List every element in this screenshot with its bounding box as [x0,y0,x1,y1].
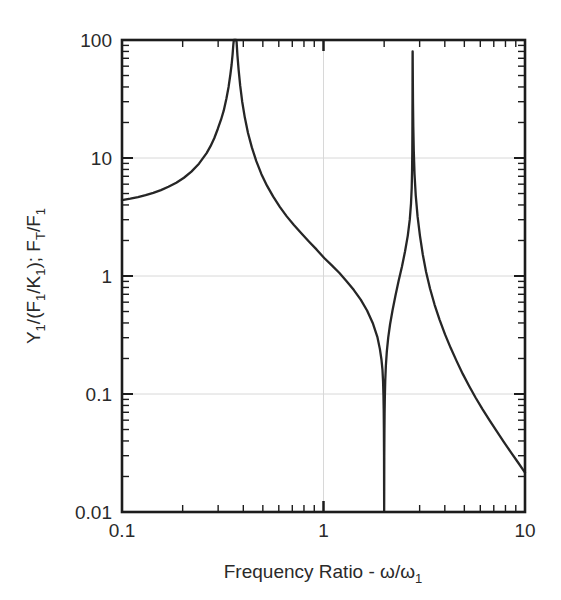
y-title-sub-4: T [33,232,48,240]
y-tick-label-0.01: 0.01 [75,502,112,523]
y-title-sub-5: 1 [33,208,48,215]
y-tick-label-100: 100 [80,30,112,51]
y-title-part-5: /F [23,215,44,232]
y-title-part-2: /(F [23,301,44,324]
y-tick-label-1: 1 [101,266,112,287]
x-tick-label-10: 10 [514,520,535,541]
x-title-sub-1: 1 [415,571,422,586]
x-title-part-1: Frequency Ratio - ω/ω [224,561,415,582]
y-title-sub-2: 1 [33,294,48,301]
chart-figure: 100 10 1 0.1 0.01 0.1 1 10 Y1/(F1/K1); F… [0,0,561,600]
y-title-sub-1: 1 [33,324,48,331]
x-tick-label-0.1: 0.1 [109,520,135,541]
y-title-sub-3: 1 [33,269,48,276]
log-log-frequency-response-plot: 100 10 1 0.1 0.01 0.1 1 10 Y1/(F1/K1); F… [0,0,561,600]
y-title-part-1: Y [23,331,44,344]
y-tick-label-10: 10 [91,148,112,169]
y-tick-label-0.1: 0.1 [86,384,112,405]
y-title-part-3: /K [23,275,44,293]
x-tick-label-1: 1 [318,520,329,541]
y-title-part-4: ); F [23,240,44,269]
